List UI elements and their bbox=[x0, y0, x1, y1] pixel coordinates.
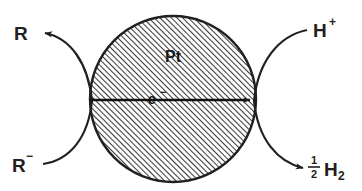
species-label-reactant-oxidized: R bbox=[14, 23, 28, 44]
hydrogen-coefficient-denominator: 2 bbox=[311, 168, 317, 180]
arrow-to-R bbox=[45, 33, 92, 101]
arrow-from-H-plus bbox=[254, 30, 307, 101]
arrow-to-H2 bbox=[254, 101, 303, 168]
figure-canvas: Pt e − R R − H + 1 2 H 2 bbox=[0, 0, 362, 191]
electron-charge: − bbox=[160, 86, 166, 98]
species-H-charge: + bbox=[329, 15, 336, 29]
hydrogen-coefficient-numerator: 1 bbox=[311, 154, 317, 166]
electron-label: e bbox=[148, 91, 156, 107]
species-label-hydrogen: 1 2 H 2 bbox=[308, 154, 345, 183]
particle-label: Pt bbox=[165, 48, 182, 65]
species-H2-text: H bbox=[324, 159, 338, 180]
species-label-proton: H + bbox=[313, 15, 336, 41]
species-R-text: R bbox=[14, 23, 28, 44]
reaction-scheme-diagram: Pt e − R R − H + 1 2 H 2 bbox=[0, 0, 362, 191]
species-H-text: H bbox=[313, 20, 327, 41]
species-R-minus-text: R bbox=[12, 155, 26, 176]
species-H2-subscript: 2 bbox=[338, 169, 345, 183]
species-label-reactant-reduced: R − bbox=[12, 149, 33, 176]
arrow-from-R-minus bbox=[43, 101, 92, 164]
species-R-minus-charge: − bbox=[26, 149, 33, 163]
